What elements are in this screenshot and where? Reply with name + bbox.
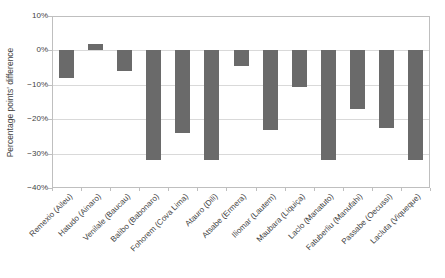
x-axis-tick [401,188,402,191]
y-axis-tick [48,85,52,86]
y-tick-label: −20% [27,114,48,124]
y-tick-label: 10% [32,11,48,21]
y-axis-tick [48,50,52,51]
x-axis-tick [314,188,315,191]
x-category-label: Passabe (Oecussi) [340,192,394,246]
x-axis-tick [343,188,344,191]
y-axis-tick [48,16,52,17]
y-tick-label: 0% [36,45,48,55]
x-axis-tick [430,188,431,191]
bar-chart: Percentage points' difference 10%0%−10%−… [0,0,445,278]
x-axis-tick [52,188,53,191]
x-axis-tick [110,188,111,191]
x-axis-tick [285,188,286,191]
y-axis-title: Percentage points' difference [5,17,16,189]
x-category-label: Fohorem (Cova Lima) [129,192,190,253]
x-axis-tick [256,188,257,191]
y-tick-label: −10% [27,80,48,90]
x-category-label: Lacluta (Viqueque) [369,192,423,246]
x-axis-tick [168,188,169,191]
y-axis-tick [48,119,52,120]
x-axis-tick [372,188,373,191]
x-axis-tick [197,188,198,191]
plot-border [52,16,430,188]
x-axis-tick [139,188,140,191]
x-axis-tick [226,188,227,191]
y-axis-tick [48,154,52,155]
y-tick-label: −30% [27,149,48,159]
y-tick-label: −40% [27,183,48,193]
x-axis-tick [81,188,82,191]
